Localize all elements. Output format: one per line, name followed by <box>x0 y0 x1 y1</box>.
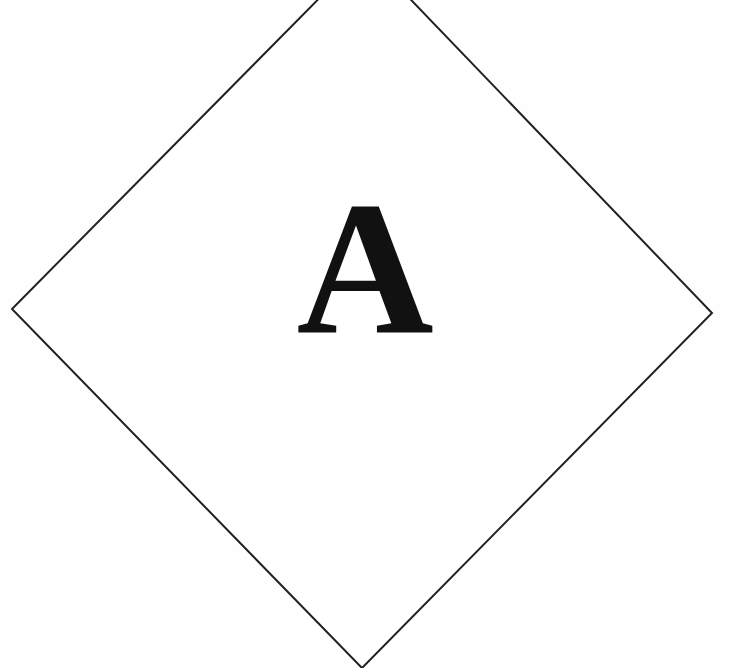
diamond-letter-label: A <box>0 174 730 364</box>
